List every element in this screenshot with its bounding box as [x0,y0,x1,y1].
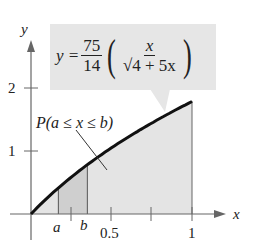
callout-pointer [150,89,170,112]
x-axis-arrow-icon [214,210,226,218]
coef-denominator: 14 [81,56,102,76]
y-axis-arrow-icon [27,40,35,52]
y-axis-label: y [19,21,28,37]
equation: y = 75 14 ( x √4 + 5x ) [56,26,195,86]
chart: y x 2 1 0.5 1 a b P(a ≤ x ≤ b) y = 75 14… [0,0,254,252]
coef-numerator: 75 [81,37,102,56]
x-tick-label-05: 0.5 [100,225,119,241]
region-label: P(a ≤ x ≤ b) [35,114,113,132]
x-tick-label-1: 1 [188,225,196,241]
right-paren: ) [183,34,192,78]
x-axis-label: x [232,206,240,222]
inner-fraction: x √4 + 5x [121,37,178,76]
inner-numerator: x [144,37,156,56]
inner-denominator: √4 + 5x [121,56,178,76]
y-tick-label-2: 2 [8,80,16,96]
shaded-probability-region [58,165,87,214]
b-label: b [80,217,88,233]
coefficient-fraction: 75 14 [81,37,102,76]
equation-lhs: y = [56,46,79,66]
y-tick-label-1: 1 [8,143,16,159]
left-paren: ( [107,34,116,78]
a-label: a [53,219,61,235]
